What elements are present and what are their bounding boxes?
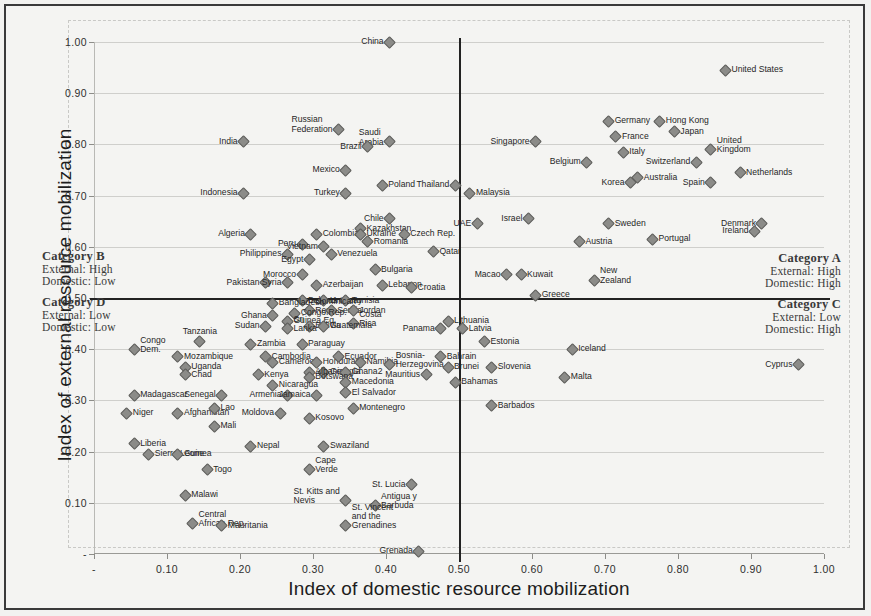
data-point-label: Lao <box>220 403 234 412</box>
data-point-marker <box>296 269 309 282</box>
data-point-label: Spain <box>683 178 705 187</box>
quadrant-vertical-line <box>459 38 461 562</box>
x-axis-tick-mark <box>167 554 168 559</box>
data-point-marker <box>653 115 666 128</box>
data-point-marker <box>792 358 805 371</box>
data-point-label: Indonesia <box>200 188 237 197</box>
data-point-label: Romania <box>374 237 408 246</box>
data-point-label: Russian Federation <box>291 115 332 134</box>
data-point-label: Pakistan <box>227 278 260 287</box>
data-point-marker <box>515 269 528 282</box>
data-point-label: Italy <box>629 147 645 156</box>
data-point-marker <box>332 123 345 136</box>
data-point-marker <box>369 263 382 276</box>
data-point-label: Madagascar <box>140 391 187 400</box>
data-point-marker <box>310 228 323 241</box>
data-point-label: China <box>361 37 383 46</box>
data-point-label: Guinea <box>184 450 212 459</box>
x-axis-tick-mark <box>532 554 533 559</box>
data-point-marker <box>690 156 703 169</box>
data-point-label: Greece <box>542 291 570 300</box>
category-a-title: Category A <box>765 252 841 265</box>
data-point-marker <box>208 420 221 433</box>
data-point-label: Czech Rep. <box>410 229 455 238</box>
data-point-label: Sri Lanka <box>293 315 316 334</box>
data-point-label: Kuwait <box>527 270 553 279</box>
data-point-label: Poland <box>388 181 415 190</box>
data-point-label: Armenia <box>249 391 281 400</box>
data-point-label: Mali <box>220 421 236 430</box>
x-axis-tick-mark <box>751 554 752 559</box>
x-axis-tick-mark <box>313 554 314 559</box>
data-point-marker <box>420 368 433 381</box>
data-point-marker <box>405 479 418 492</box>
data-point-label: Japan <box>680 127 703 136</box>
category-d-line1: External: Low <box>42 309 116 322</box>
data-point-label: Iceland <box>578 345 606 354</box>
data-point-marker <box>237 187 250 200</box>
category-a-block: Category A External: High Domestic: High <box>765 252 841 290</box>
data-point-label: Kosovo <box>315 414 344 423</box>
data-point-marker <box>274 407 287 420</box>
category-b-block: Category B External: High Domestic: Low <box>42 250 116 288</box>
x-axis-tick-label: - <box>92 563 96 575</box>
data-point-marker <box>376 279 389 292</box>
data-point-marker <box>303 412 316 425</box>
data-point-label: Paraguay <box>308 339 345 348</box>
figure-frame: -0.100.200.300.400.500.600.700.800.901.0… <box>4 4 865 610</box>
data-point-label: Brunei <box>454 362 479 371</box>
data-point-marker <box>186 517 199 530</box>
x-axis-tick-label: 0.10 <box>156 563 178 575</box>
data-point-marker <box>719 64 732 77</box>
data-point-label: Ghana <box>241 311 267 320</box>
data-point-label: India <box>219 137 238 146</box>
x-axis-tick-mark <box>678 554 679 559</box>
category-b-title: Category B <box>42 250 116 263</box>
data-point-label: Liberia <box>140 439 166 448</box>
data-point-label: El Salvador <box>352 388 396 397</box>
data-point-marker <box>588 274 601 287</box>
data-point-marker <box>383 135 396 148</box>
data-point-marker <box>252 368 265 381</box>
data-point-label: Macedonia <box>352 378 394 387</box>
x-axis-tick-label: 0.70 <box>594 563 616 575</box>
data-point-label: UAE <box>454 219 472 228</box>
scatter-plot-figure: -0.100.200.300.400.500.600.700.800.901.0… <box>0 0 871 616</box>
data-point-label: Mexico <box>313 165 340 174</box>
data-point-label: Nepal <box>257 442 279 451</box>
data-point-marker <box>142 448 155 461</box>
data-point-marker <box>734 166 747 179</box>
data-point-label: Sudan <box>235 322 260 331</box>
data-point-label: Chad <box>191 370 212 379</box>
data-point-marker <box>558 371 571 384</box>
data-point-marker <box>602 115 615 128</box>
category-c-title: Category C <box>765 298 841 311</box>
category-c-line2: Domestic: High <box>765 323 841 336</box>
data-point-marker <box>310 279 323 292</box>
data-point-label: Niger <box>133 409 154 418</box>
data-point-marker <box>347 402 360 415</box>
data-point-label: France <box>622 132 649 141</box>
data-point-label: Zambia <box>257 339 286 348</box>
x-axis-tick-label: 0.30 <box>302 563 324 575</box>
data-point-label: New Zealand <box>600 266 631 285</box>
data-point-label: Chile <box>364 214 384 223</box>
x-axis-tick-label: 0.60 <box>521 563 543 575</box>
data-point-label: Ghana2 <box>352 368 383 377</box>
data-point-label: Tanzania <box>183 327 217 336</box>
data-point-label: Togo <box>213 465 232 474</box>
x-axis-tick-mark <box>605 554 606 559</box>
data-point-marker <box>646 233 659 246</box>
data-point-label: Senegal <box>184 391 216 400</box>
data-point-marker <box>704 176 717 189</box>
data-point-marker <box>376 179 389 192</box>
data-point-label: Kenya <box>264 370 288 379</box>
data-point-label: Estonia <box>491 337 520 346</box>
data-point-label: Hong Kong <box>666 117 709 126</box>
data-point-label: Korea <box>602 178 625 187</box>
data-point-label: Philippines <box>240 250 282 259</box>
data-point-marker <box>500 269 513 282</box>
data-point-label: Qatar <box>439 247 461 256</box>
data-point-marker <box>179 368 192 381</box>
data-point-label: Algeria <box>218 229 245 238</box>
